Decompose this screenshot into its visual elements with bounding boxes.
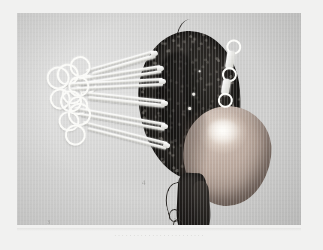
surgical-specimen-photograph: 4 3 <box>17 13 301 225</box>
plate-marker-corner: 3 <box>47 218 51 225</box>
tissue-highlight <box>192 93 195 96</box>
clamp-shaft <box>83 121 168 145</box>
suture-loop-icon <box>173 219 183 225</box>
photo-canvas: 4 3 <box>17 13 301 225</box>
tissue-highlight <box>199 70 201 72</box>
clamp-ring-handle <box>63 122 89 148</box>
clamp-ring-handle <box>46 66 70 90</box>
tissue-highlight <box>188 107 191 110</box>
figure-caption: · · · · · · · · · · · · · · · · · · · · … <box>17 232 301 240</box>
plate-marker-mid: 4 <box>142 179 146 187</box>
page-background: 4 3 · · · · · · · · · · · · · · · · · · … <box>0 0 323 250</box>
caption-divider <box>17 228 301 231</box>
lobe-specular-highlight <box>206 118 243 147</box>
